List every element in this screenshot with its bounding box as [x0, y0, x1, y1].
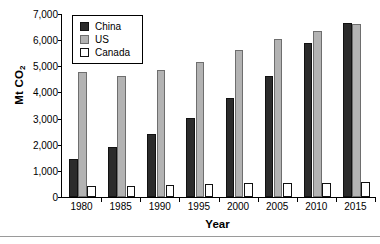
legend-item-us[interactable]: US [80, 33, 130, 46]
x-axis-tick-labels: 19801985199019952000200520102015 [0, 0, 380, 244]
footer-divider [0, 236, 380, 237]
x-axis-tick-label: 1990 [149, 201, 171, 212]
x-axis-tick-label: 1980 [70, 201, 92, 212]
x-axis-tick-label: 2005 [266, 201, 288, 212]
chart-legend: ChinaUSCanada [72, 15, 143, 64]
legend-item-label: Canada [95, 47, 130, 58]
legend-swatch-icon [80, 22, 89, 31]
x-axis-tick-label: 1995 [188, 201, 210, 212]
legend-swatch-icon [80, 35, 89, 44]
legend-item-canada[interactable]: Canada [80, 46, 130, 59]
legend-item-label: China [95, 21, 121, 32]
legend-item-label: US [95, 34, 109, 45]
x-axis-tick-label: 1985 [110, 201, 132, 212]
x-axis-tick-label: 2000 [227, 201, 249, 212]
bar-chart-figure: Mt CO2 01,0002,0003,0004,0005,0006,0007,… [0, 0, 380, 244]
x-axis-tick-label: 2015 [344, 201, 366, 212]
x-axis-tick-label: 2010 [305, 201, 327, 212]
legend-item-china[interactable]: China [80, 20, 130, 33]
legend-swatch-icon [80, 48, 89, 57]
x-axis-label: Year [61, 218, 374, 230]
